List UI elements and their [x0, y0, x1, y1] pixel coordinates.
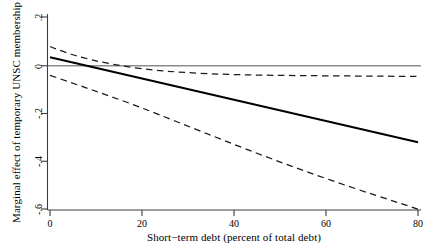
marginal-effect-line: [50, 57, 418, 142]
x-axis-ticks: [50, 210, 418, 216]
x-tick-label-20: 20: [137, 218, 147, 229]
y-tick-label-p2: .2: [33, 8, 44, 28]
ci-lower-line: [50, 75, 418, 209]
y-tick-label-0: 0: [33, 57, 44, 77]
plot-canvas: [0, 0, 431, 251]
y-tick-label-m4: -.4: [33, 152, 44, 172]
marginal-effects-plot: 0 20 40 60 80 .2 0 -.2 -.4 -.6 Short−ter…: [0, 0, 431, 251]
y-axis-title: Marginal effect of temporary UNSC member…: [10, 3, 22, 223]
x-tick-label-0: 0: [48, 218, 53, 229]
y-tick-label-m6: -.6: [33, 200, 44, 220]
x-axis-title: Short−term debt (percent of total debt): [50, 231, 418, 243]
ci-upper-line: [50, 47, 418, 77]
x-tick-label-40: 40: [229, 218, 239, 229]
y-tick-label-m2: -.2: [33, 104, 44, 124]
x-tick-label-60: 60: [321, 218, 331, 229]
x-tick-label-80: 80: [413, 218, 423, 229]
